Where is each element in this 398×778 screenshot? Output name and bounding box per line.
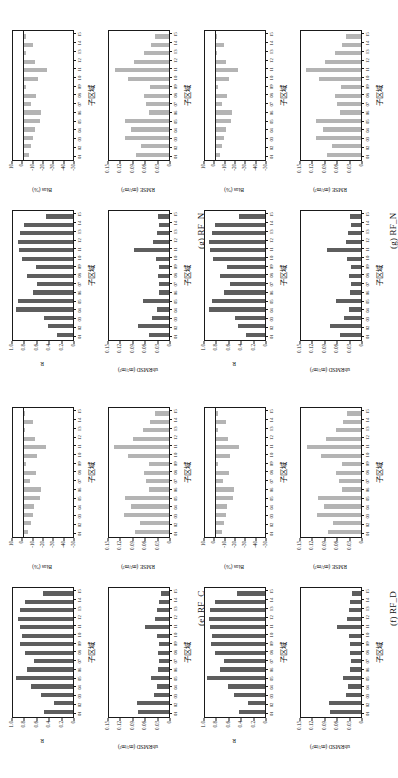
x-axis-tick-mark	[74, 515, 76, 516]
y-axis-tick-mark	[24, 719, 25, 722]
bar	[336, 428, 361, 432]
x-axis-tick-label: 04	[77, 685, 82, 690]
bar	[349, 274, 361, 278]
bar	[151, 676, 169, 680]
x-axis-tick-mark	[170, 463, 172, 464]
bar	[215, 223, 265, 227]
x-axis-tick-label: 05	[173, 299, 178, 304]
bar	[157, 634, 169, 638]
bar	[24, 223, 73, 227]
y-axis-tick-mark	[216, 342, 217, 345]
x-axis-title: 子区域	[181, 85, 192, 106]
y-axis-tick-mark	[74, 162, 75, 165]
y-axis-tick-label: 0	[212, 164, 217, 167]
x-axis-tick-label: 04	[173, 308, 178, 313]
bar	[318, 496, 361, 500]
bar	[115, 68, 169, 72]
x-axis-tick-mark	[266, 42, 268, 43]
y-axis-tick-label: -30	[243, 541, 248, 548]
y-axis-tick-mark	[170, 719, 171, 722]
bar	[329, 701, 361, 705]
x-axis-tick-label: 15	[77, 589, 82, 594]
y-axis-tick-label: 0.03	[347, 541, 352, 550]
bar	[18, 617, 73, 621]
y-axis-tick-label: -50	[263, 164, 268, 171]
y-axis-tick-mark	[145, 162, 146, 165]
y-axis-tick-mark	[157, 719, 158, 722]
y-axis-tick-label: 0	[263, 721, 268, 724]
x-axis-tick-mark	[74, 248, 76, 249]
bar	[342, 43, 361, 47]
y-axis-tick-mark	[145, 539, 146, 542]
plot-area	[204, 30, 266, 161]
x-axis-tick-label: 10	[365, 453, 370, 458]
x-axis-tick-mark	[266, 463, 268, 464]
x-axis-tick-mark	[74, 129, 76, 130]
x-axis-tick-mark	[74, 240, 76, 241]
y-axis-tick-mark	[300, 539, 301, 542]
bar	[23, 68, 46, 72]
y-axis-tick-label: 0.15	[297, 721, 302, 730]
bar	[215, 119, 231, 123]
x-axis-tick-label: 14	[77, 221, 82, 226]
bar	[350, 600, 361, 604]
x-axis-tick-label: 05	[269, 299, 274, 304]
x-axis-tick-label: 12	[269, 615, 274, 620]
x-axis-tick-mark	[362, 231, 364, 232]
y-axis-tick-label: 0	[359, 721, 364, 724]
bar	[155, 34, 169, 38]
bar	[211, 642, 265, 646]
bar	[23, 454, 37, 458]
bar	[215, 651, 265, 655]
x-axis-tick-mark	[266, 68, 268, 69]
y-axis-title: ubRMSD (m³/m³)	[299, 367, 361, 373]
x-axis-tick-label: 08	[77, 470, 82, 475]
x-axis-tick-label: 10	[77, 256, 82, 261]
x-axis-tick-mark	[74, 660, 76, 661]
bar	[337, 625, 361, 629]
x-axis-tick-label: 02	[173, 326, 178, 331]
bar	[23, 119, 40, 123]
bar	[23, 521, 31, 525]
y-axis-tick-label: 0	[20, 541, 25, 544]
x-axis-tick-mark	[362, 428, 364, 429]
x-axis-tick-label: 07	[173, 479, 178, 484]
x-axis-tick-label: 04	[77, 128, 82, 133]
y-axis-tick-label: 0.09	[130, 344, 135, 353]
y-axis-tick-mark	[362, 539, 363, 542]
x-axis-tick-mark	[170, 51, 172, 52]
group-caption-rf_n_bottom: (g) RF_N	[388, 213, 398, 249]
bar-series	[109, 588, 169, 717]
y-axis-title: Bias (%)	[203, 187, 265, 193]
x-axis-tick-mark	[266, 336, 268, 337]
y-axis-title: R	[11, 738, 73, 744]
x-axis-tick-mark	[170, 129, 172, 130]
bar	[159, 659, 169, 663]
plot-area	[300, 30, 362, 161]
y-axis-tick-label: -40	[61, 164, 66, 171]
x-axis-tick-label: 03	[365, 137, 370, 142]
x-axis-tick-mark	[74, 112, 76, 113]
x-axis-tick-label: 09	[77, 84, 82, 89]
x-axis-tick-mark	[170, 686, 172, 687]
y-axis-title: Bias (%)	[11, 564, 73, 570]
x-axis-tick-label: 09	[173, 264, 178, 269]
x-axis-tick-label: 14	[173, 41, 178, 46]
bar	[239, 710, 265, 714]
x-axis-tick-mark	[362, 419, 364, 420]
x-axis-tick-mark	[170, 515, 172, 516]
y-axis-tick-mark	[170, 162, 171, 165]
bar	[161, 591, 169, 595]
bar	[20, 625, 73, 629]
bar	[342, 487, 361, 491]
bar	[319, 77, 361, 81]
x-axis-tick-mark	[266, 275, 268, 276]
x-axis-tick-label: 02	[173, 146, 178, 151]
y-axis-tick-label: 0.2	[251, 721, 256, 727]
bar	[215, 521, 223, 525]
bar	[57, 333, 73, 337]
y-axis-tick-mark	[108, 162, 109, 165]
x-axis-tick-label: 15	[173, 589, 178, 594]
bar	[342, 462, 361, 466]
y-axis-tick-label: 0.15	[105, 541, 110, 550]
